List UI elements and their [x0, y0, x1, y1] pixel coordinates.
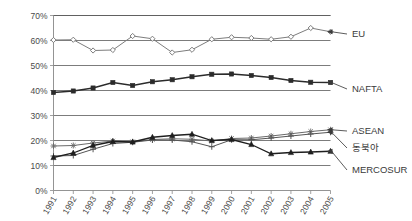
xtick-label: 2000 — [219, 194, 237, 216]
marker-diamond — [269, 37, 274, 42]
ytick-label: 40% — [30, 86, 47, 96]
marker-square — [229, 72, 233, 76]
xtick-label: 2003 — [278, 194, 296, 216]
xtick-label: 1998 — [179, 194, 197, 216]
legend-leader-line — [332, 151, 348, 170]
legend-leader-line — [332, 130, 348, 131]
legend-entry-NAFTA[interactable]: NAFTA — [327, 80, 383, 95]
marker-square — [111, 80, 115, 84]
marker-diamond — [51, 37, 56, 42]
legend-label-MERCOSUR: MERCOSUR — [352, 164, 408, 175]
marker-square — [91, 86, 95, 90]
xtick-label: 1992 — [60, 194, 78, 216]
line-chart: 0%10%20%30%40%50%60%70%19911992199319941… — [0, 0, 412, 221]
series-nafta — [51, 72, 332, 95]
xtick-label: 1997 — [159, 194, 177, 216]
xtick-label: 1994 — [100, 194, 118, 216]
marker-diamond — [229, 35, 234, 40]
xtick-label: 1995 — [120, 194, 138, 216]
legend-label-NAFTA: NAFTA — [352, 83, 383, 94]
marker-diamond — [288, 34, 293, 39]
legend-label-EU: EU — [352, 28, 365, 39]
xtick-label: 2002 — [258, 194, 276, 216]
marker-square — [269, 75, 273, 79]
chart-canvas: 0%10%20%30%40%50%60%70%19911992199319941… — [0, 0, 412, 221]
legend-entry-ASEAN[interactable]: ASEAN — [327, 125, 384, 136]
legend-label-동북아: 동북아 — [352, 142, 379, 153]
marker-square — [309, 80, 313, 84]
legend-leader-line — [332, 83, 348, 90]
marker-diamond — [189, 47, 194, 52]
marker-diamond — [209, 37, 214, 42]
legend-leader-line — [332, 132, 348, 148]
legend-label-ASEAN: ASEAN — [352, 125, 384, 136]
xtick-label: 2001 — [238, 194, 256, 216]
xtick-label: 1991 — [41, 194, 59, 216]
xtick-label: 1996 — [140, 194, 158, 216]
marker-diamond — [308, 25, 313, 30]
ytick-label: 0% — [35, 186, 48, 196]
ytick-label: 50% — [30, 61, 47, 71]
marker-square — [289, 78, 293, 82]
xtick-label: 2004 — [298, 194, 316, 216]
marker-diamond — [90, 48, 95, 53]
legend-leader-line — [332, 32, 348, 34]
marker-square — [131, 83, 135, 87]
marker-square — [71, 89, 75, 93]
xtick-label: 1993 — [80, 194, 98, 216]
marker-square — [150, 80, 154, 84]
legend-entry-EU[interactable]: EU — [327, 28, 365, 39]
marker-diamond — [71, 37, 76, 42]
marker-square — [190, 75, 194, 79]
ytick-label: 70% — [30, 11, 47, 21]
ytick-label: 20% — [30, 136, 47, 146]
marker-square — [249, 73, 253, 77]
xtick-label: 2005 — [318, 194, 336, 216]
ytick-label: 30% — [30, 111, 47, 121]
xtick-label: 1999 — [199, 194, 217, 216]
marker-square — [170, 78, 174, 82]
ytick-label: 60% — [30, 36, 47, 46]
marker-square — [51, 90, 55, 94]
ytick-label: 10% — [30, 161, 47, 171]
marker-square — [210, 72, 214, 76]
marker-diamond — [249, 35, 254, 40]
